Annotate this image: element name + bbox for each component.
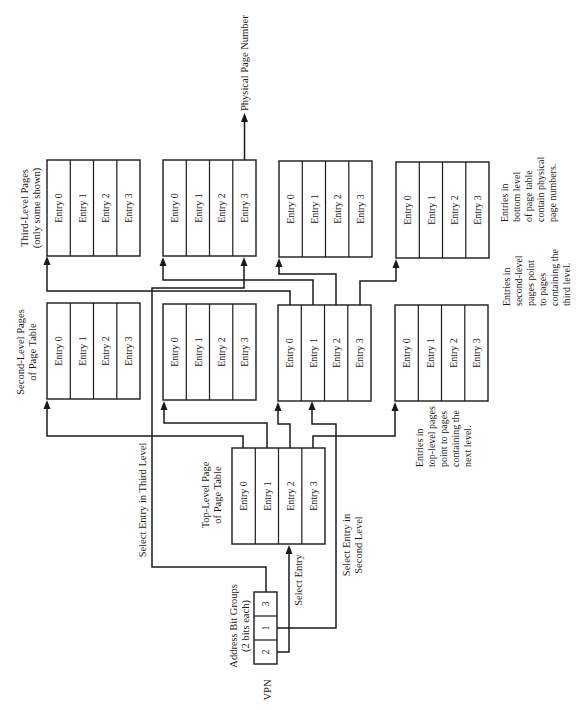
entry-label: Entry 2 [331,338,342,368]
entry-label: Entry 0 [169,193,180,223]
arrow-up-icon [241,257,248,266]
entry-label: Entry 1 [309,194,320,224]
second-level-page-2: Entry 0 Entry 1 Entry 2 Entry 3 [278,305,371,401]
arrow-up-icon [392,402,399,411]
third-level-page-3: Entry 0 Entry 1 Entry 2 Entry 3 [396,162,489,258]
entry-label: Entry 3 [308,481,319,511]
entry-label: Entry 0 [53,193,64,223]
address-bit-groups-subtitle: (2 bits each) [240,600,252,652]
arrow-up-icon [276,258,283,267]
note-line: of page table [523,170,534,222]
third-level-row: Entry 0 Entry 1 Entry 2 Entry 3 Entry 0 … [47,160,489,258]
vpn-label: VPN [262,679,273,700]
vpn-group-label: 2 [260,650,271,655]
note-line: third level. [561,263,572,306]
third-level-page-2: Entry 0 Entry 1 Entry 2 Entry 3 [279,161,372,257]
note-line: second-level [513,255,524,306]
arrow-up-icon [275,402,282,411]
arrow-up-icon [160,257,167,266]
third-level-pages-title: Third-Level Pages [19,169,30,247]
entry-label: Entry 2 [216,193,227,223]
note-line: pages point [525,260,536,306]
note-line: containing the [450,410,461,467]
entry-label: Entry 1 [425,338,436,368]
note-line: Entries in [501,267,512,306]
note-bottom-level: Entries in bottom level of page table co… [499,157,558,222]
entry-label: Entry 1 [77,336,88,366]
note-top-level: Entries in top-level pages point to page… [414,406,473,467]
entry-label: Entry 1 [193,193,204,223]
note-line: next level. [462,425,473,467]
third-level-pages-subtitle: (only some shown) [31,167,43,248]
entry-label: Entry 1 [262,481,273,511]
multilevel-page-table-diagram: Entry 0 Entry 1 Entry 2 Entry 3 Entry 0 … [0,0,579,710]
entry-label: Entry 3 [354,338,365,368]
arrow-up-icon [44,256,51,265]
note-line: page numbers. [547,164,558,222]
third-level-page-1: Entry 0 Entry 1 Entry 2 Entry 3 [163,160,256,256]
second-level-pages-title: Second-Level Pages [15,309,26,394]
entry-label: Entry 0 [169,337,180,367]
select-entry-third-level-label: Select Entry in Third Level [137,443,148,558]
vpn-address-bit-groups: 3 1 2 [254,592,277,664]
second-level-row: Entry 0 Entry 1 Entry 2 Entry 3 Entry 0 … [47,303,488,401]
note-line: containing the [549,249,560,306]
entry-label: Entry 0 [401,338,412,368]
entry-label: Entry 1 [77,193,88,223]
select-entry-label: Select Entry [293,553,304,605]
entry-label: Entry 2 [449,195,460,225]
arrow-up-icon [393,259,400,268]
entry-label: Entry 3 [471,338,482,368]
top-level-page: Entry 0 Entry 1 Entry 2 Entry 3 [232,448,325,544]
entry-label: Entry 2 [100,193,111,223]
vpn-group-label: 3 [260,602,271,607]
second-level-page-3: Entry 0 Entry 1 Entry 2 Entry 3 [395,305,488,401]
entry-label: Entry 0 [238,481,249,511]
entry-label: Entry 1 [426,195,437,225]
note-line: bottom level [511,172,522,222]
arrow-up-icon [309,401,316,410]
second-level-page-1: Entry 0 Entry 1 Entry 2 Entry 3 [163,304,256,400]
entry-label: Entry 2 [100,336,111,366]
entry-label: Entry 2 [332,194,343,224]
arrow-up-icon [286,545,293,554]
vpn-group-label: 1 [260,626,271,631]
top-level-page-title: Top-Level Page [200,461,211,528]
entry-label: Entry 0 [53,336,64,366]
select-entry-second-level-label-2: Second Level [353,516,364,574]
address-bit-groups-title: Address Bit Groups [228,584,239,667]
arrow-up-icon [241,113,248,122]
entry-label: Entry 2 [448,338,459,368]
entry-label: Entry 3 [123,336,134,366]
entry-label: Entry 0 [284,338,295,368]
top-level-page-subtitle: of Page Table [212,466,223,524]
arrow-up-icon [161,401,168,410]
select-entry-second-level-label-1: Select Entry in [341,513,352,576]
note-second-level: Entries in second-level pages point to p… [501,249,572,306]
entry-label: Entry 0 [285,194,296,224]
entry-label: Entry 1 [193,337,204,367]
note-line: contain physical [535,157,546,222]
entry-label: Entry 3 [472,195,483,225]
second-level-pages-subtitle: of Page Table [27,323,38,381]
entry-label: Entry 3 [123,193,134,223]
entry-label: Entry 0 [402,195,413,225]
entry-label: Entry 3 [239,193,250,223]
third-level-page-0: Entry 0 Entry 1 Entry 2 Entry 3 [47,160,140,256]
entry-label: Entry 2 [216,337,227,367]
arrow-up-icon [44,400,51,409]
entry-label: Entry 3 [239,337,250,367]
entry-label: Entry 2 [285,481,296,511]
second-level-page-0: Entry 0 Entry 1 Entry 2 Entry 3 [47,303,140,399]
note-line: to pages [537,273,548,306]
note-line: Entries in [499,183,510,222]
entry-label: Entry 1 [308,338,319,368]
note-line: Entries in [414,428,425,467]
entry-label: Entry 3 [355,194,366,224]
note-line: point to pages [438,411,449,467]
physical-page-number-label: Physical Page Number [239,15,250,111]
note-line: top-level pages [426,406,437,467]
